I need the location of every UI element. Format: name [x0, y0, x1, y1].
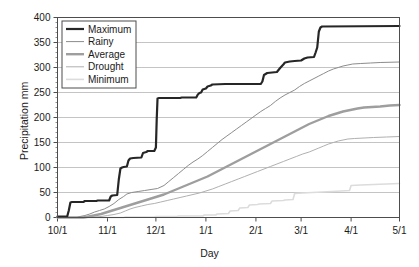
y-tick-label: 300 [34, 62, 51, 73]
y-tick-label: 0 [45, 212, 51, 223]
x-tick-label: 10/1 [48, 225, 68, 236]
legend-label-minimum: Minimum [88, 74, 129, 85]
x-tick-label: 2/1 [249, 225, 263, 236]
y-axis-label: Precipitation mm [18, 82, 30, 160]
x-tick-label: 1/1 [199, 225, 213, 236]
y-tick-label: 200 [34, 112, 51, 123]
x-axis-label: Day [0, 247, 419, 259]
legend-label-drought: Drought [88, 61, 124, 72]
legend-label-rainy: Rainy [88, 36, 114, 47]
x-tick-label: 12/1 [146, 225, 166, 236]
legend-label-average: Average [88, 49, 126, 60]
y-tick-label: 100 [34, 162, 51, 173]
y-tick-label: 400 [34, 12, 51, 23]
y-tick-label: 350 [34, 37, 51, 48]
y-tick-label: 150 [34, 137, 51, 148]
x-tick-label: 5/1 [393, 225, 407, 236]
x-tick-label: 11/1 [98, 225, 117, 236]
y-tick-label: 250 [34, 87, 51, 98]
precipitation-line-chart: 050100150200250300350400 10/111/112/11/1… [0, 0, 419, 267]
legend-label-maximum: Maximum [88, 24, 131, 35]
x-tick-label: 3/1 [294, 225, 308, 236]
x-axis-ticks: 10/111/112/11/12/13/14/15/1 [48, 218, 407, 236]
x-tick-label: 4/1 [344, 225, 358, 236]
y-axis-ticks: 050100150200250300350400 [34, 12, 58, 223]
series-line-drought [58, 137, 400, 218]
chart-legend: MaximumRainyAverageDroughtMinimum [62, 21, 136, 88]
chart-figure: 050100150200250300350400 10/111/112/11/1… [0, 0, 419, 267]
y-tick-label: 50 [39, 187, 51, 198]
